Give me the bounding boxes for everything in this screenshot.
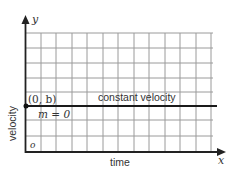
chart-canvas: y x (0, b) m = 0 constant velocity veloc… bbox=[0, 0, 239, 178]
origin-label: o bbox=[30, 140, 36, 150]
x-axis-title: time bbox=[110, 156, 130, 168]
intercept-label: (0, b) bbox=[28, 93, 56, 105]
y-axis-arrow-icon bbox=[22, 15, 30, 24]
x-axis-symbol: x bbox=[218, 154, 225, 167]
y-axis-symbol: y bbox=[31, 13, 39, 26]
slope-label: m = 0 bbox=[38, 108, 70, 120]
y-axis-title: velocity bbox=[6, 105, 18, 141]
line-label: constant velocity bbox=[98, 91, 176, 103]
y-axis bbox=[22, 15, 30, 153]
